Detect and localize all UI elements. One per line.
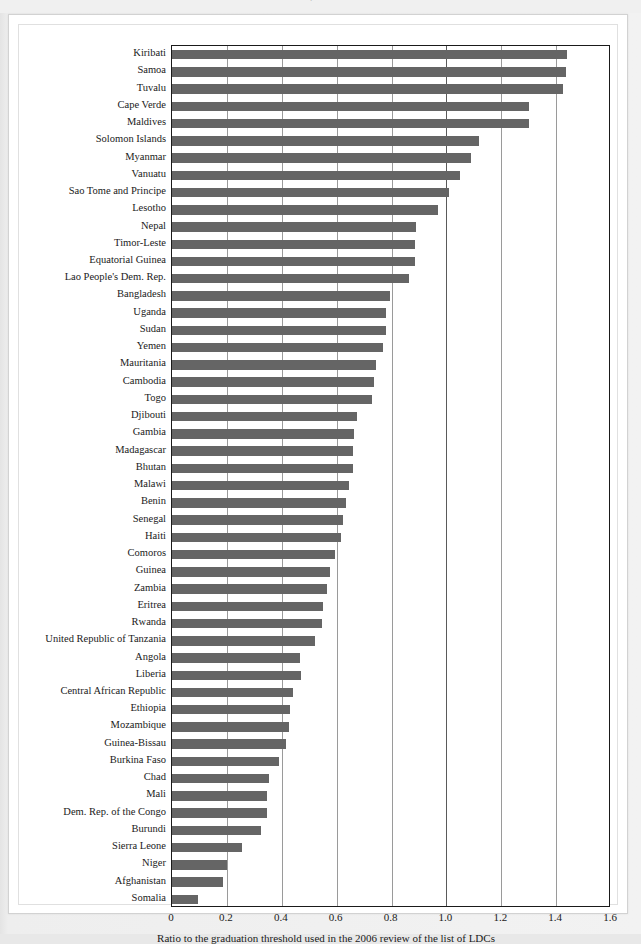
figure-card: KiribatiSamoaTuvaluCape VerdeMaldivesSol…: [8, 14, 628, 914]
bar: [172, 257, 415, 266]
bar-row: [172, 412, 609, 421]
category-label: Equatorial Guinea: [89, 255, 166, 266]
category-label: Comoros: [127, 548, 166, 559]
category-label: Guinea: [136, 565, 166, 576]
bar: [172, 343, 383, 352]
category-label: Afghanistan: [115, 876, 166, 887]
bar-row: [172, 67, 609, 76]
x-tick-label: 1.4: [548, 911, 562, 923]
bar-row: [172, 395, 609, 404]
x-tick-label: 1.2: [493, 911, 507, 923]
bar-row: [172, 360, 609, 369]
category-label: Niger: [142, 858, 166, 869]
bar: [172, 205, 438, 214]
x-tick-label: 1.0: [439, 911, 453, 923]
x-axis-title: Ratio to the graduation threshold used i…: [17, 932, 635, 944]
bar: [172, 498, 346, 507]
category-label: Cambodia: [123, 376, 166, 387]
bar-row: [172, 188, 609, 197]
bar: [172, 395, 372, 404]
bar-chart: KiribatiSamoaTuvaluCape VerdeMaldivesSol…: [17, 29, 635, 927]
bar: [172, 722, 289, 731]
category-label: Madagascar: [115, 445, 166, 456]
category-label: Dem. Rep. of the Congo: [63, 807, 166, 818]
bar: [172, 533, 341, 542]
bar-row: [172, 739, 609, 748]
bar-row: [172, 619, 609, 628]
bar: [172, 481, 349, 490]
category-label: Guinea-Bissau: [104, 738, 166, 749]
x-tick-label: 0.4: [274, 911, 288, 923]
bar: [172, 653, 300, 662]
category-label: Ethiopia: [130, 703, 166, 714]
bar-row: [172, 343, 609, 352]
bar-row: [172, 602, 609, 611]
bar-row: [172, 791, 609, 800]
bar-row: [172, 205, 609, 214]
bar-row: [172, 653, 609, 662]
bar: [172, 705, 290, 714]
bar-row: [172, 291, 609, 300]
category-label: Maldives: [127, 117, 166, 128]
category-label: Zambia: [134, 583, 166, 594]
bar-row: [172, 843, 609, 852]
category-label: Djibouti: [131, 410, 166, 421]
bar: [172, 102, 529, 111]
bar-row: [172, 481, 609, 490]
bar-row: [172, 308, 609, 317]
bar: [172, 240, 415, 249]
bar: [172, 119, 529, 128]
category-label: Mauritania: [120, 358, 166, 369]
category-label: Rwanda: [132, 617, 166, 628]
bar: [172, 188, 449, 197]
category-label: Cape Verde: [118, 100, 167, 111]
bar-row: [172, 429, 609, 438]
category-label: Togo: [145, 393, 166, 404]
category-label: Mali: [146, 789, 166, 800]
bar-row: [172, 171, 609, 180]
category-label: Gambia: [133, 427, 166, 438]
category-label: Timor-Leste: [114, 238, 166, 249]
category-label: Kiribati: [133, 48, 166, 59]
bar-row: [172, 515, 609, 524]
bar: [172, 895, 198, 904]
category-label: Somalia: [132, 893, 166, 904]
bar: [172, 136, 479, 145]
bar: [172, 860, 227, 869]
bar: [172, 308, 386, 317]
bar: [172, 877, 223, 886]
bar: [172, 757, 279, 766]
bar-row: [172, 584, 609, 593]
bar-row: [172, 274, 609, 283]
category-label: Chad: [144, 772, 166, 783]
bar: [172, 550, 335, 559]
bar: [172, 274, 409, 283]
category-label: Mozambique: [111, 720, 166, 731]
bar: [172, 429, 354, 438]
bar-row: [172, 102, 609, 111]
bar: [172, 671, 301, 680]
bar: [172, 826, 261, 835]
bar: [172, 739, 286, 748]
bar-row: [172, 446, 609, 455]
bar: [172, 619, 322, 628]
bar: [172, 222, 416, 231]
bar-row: [172, 808, 609, 817]
bar-row: [172, 705, 609, 714]
bar-series: [172, 46, 609, 906]
bar-row: [172, 895, 609, 904]
category-label: Lesotho: [132, 203, 166, 214]
bar-row: [172, 257, 609, 266]
bar-row: [172, 464, 609, 473]
plot-area: [171, 45, 610, 907]
bar-row: [172, 688, 609, 697]
category-label: Haiti: [145, 531, 166, 542]
bar-row: [172, 84, 609, 93]
bar: [172, 688, 293, 697]
bar-row: [172, 567, 609, 576]
bar-row: [172, 136, 609, 145]
category-label: Tuvalu: [137, 83, 166, 94]
page-top-strip: .: [0, 0, 641, 13]
category-label: Myanmar: [125, 152, 166, 163]
